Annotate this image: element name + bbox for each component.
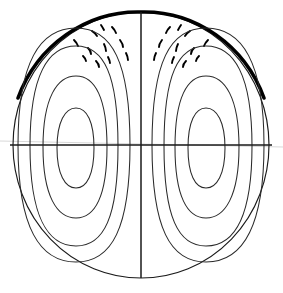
figure-container	[0, 0, 283, 293]
right-contour-level-3	[175, 76, 239, 218]
left-contour-level-4	[57, 108, 94, 188]
right-contour-level-4	[188, 108, 225, 188]
left-contour-level-3	[43, 76, 107, 218]
contour-diagram	[0, 0, 283, 293]
